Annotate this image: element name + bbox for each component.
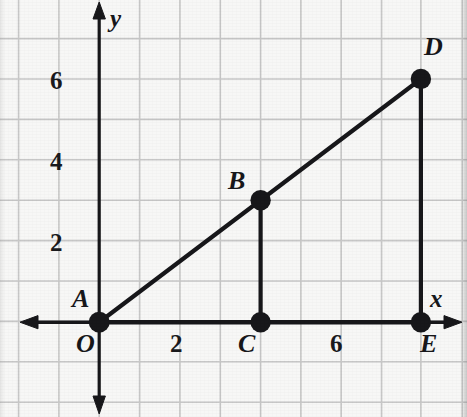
x-tick-label-6: 6 bbox=[330, 331, 343, 356]
point-label-A: A bbox=[72, 286, 89, 312]
right-edge-shading bbox=[461, 0, 467, 417]
point-label-B: B bbox=[228, 168, 245, 194]
point-label-C: C bbox=[238, 331, 255, 357]
x-axis-label: x bbox=[430, 286, 443, 311]
origin-label-O: O bbox=[76, 331, 95, 357]
point-marker-B bbox=[250, 190, 270, 210]
x-axis-arrow-left bbox=[20, 316, 38, 329]
left-edge-shading bbox=[0, 0, 5, 417]
point-label-E: E bbox=[420, 331, 437, 357]
coordinate-plane-figure: y x 6 4 2 2 6 A B C D E O bbox=[0, 0, 467, 417]
y-tick-label-6: 6 bbox=[50, 68, 63, 93]
coordinate-plane-canvas bbox=[0, 0, 467, 417]
grid-lines bbox=[0, 0, 467, 417]
y-tick-label-4: 4 bbox=[50, 149, 63, 174]
x-axis-arrow-right bbox=[444, 316, 462, 329]
point-marker-D bbox=[411, 69, 431, 89]
point-label-D: D bbox=[424, 34, 443, 60]
y-axis-arrow-down bbox=[93, 396, 105, 414]
y-tick-label-2: 2 bbox=[50, 230, 63, 255]
x-tick-label-2: 2 bbox=[170, 331, 183, 356]
y-axis-label: y bbox=[110, 6, 121, 31]
y-axis-arrow-up bbox=[93, 2, 105, 19]
